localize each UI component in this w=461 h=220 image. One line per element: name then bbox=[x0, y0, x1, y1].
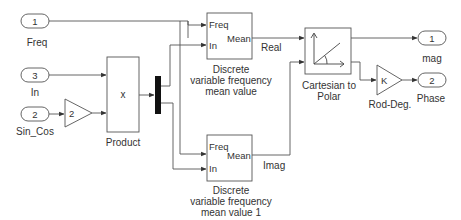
signal-imag-label: Imag bbox=[263, 160, 285, 171]
product-symbol: x bbox=[121, 89, 126, 100]
cart2polar-label-1: Cartesian to bbox=[302, 80, 356, 91]
cart2polar-block[interactable] bbox=[305, 28, 351, 74]
inport-sincos-number: 2 bbox=[32, 109, 37, 120]
product-label: Product bbox=[106, 137, 140, 148]
gain-value: 2 bbox=[69, 108, 74, 119]
mean-imag-freq-port: Freq bbox=[209, 141, 229, 152]
inport-freq-number: 1 bbox=[32, 16, 37, 27]
rad-deg-value: K bbox=[381, 75, 387, 86]
demux-bar[interactable] bbox=[155, 76, 161, 114]
inport-freq-label: Freq bbox=[27, 37, 48, 48]
mean-real-label-2: variable frequency bbox=[190, 75, 272, 86]
mean-imag-label-2: variable frequency bbox=[190, 196, 272, 207]
mean-real-label-1: Discrete bbox=[213, 64, 250, 75]
mean-real-label-3: mean value bbox=[205, 86, 257, 97]
mean-imag-in-port: In bbox=[209, 163, 217, 174]
signal-real-label: Real bbox=[261, 42, 282, 53]
mean-real-in-port: In bbox=[209, 40, 217, 51]
outport-phase-label: Phase bbox=[417, 93, 445, 104]
mean-imag-label-3: mean value 1 bbox=[201, 207, 261, 218]
outport-phase-number: 2 bbox=[429, 75, 434, 86]
mean-imag-out-port: Mean bbox=[227, 150, 251, 161]
inport-in-label: In bbox=[31, 87, 39, 98]
mean-real-freq-port: Freq bbox=[209, 19, 229, 30]
mean-imag-label-1: Discrete bbox=[213, 185, 250, 196]
outport-mag-label: mag bbox=[422, 53, 441, 64]
inport-in-number: 3 bbox=[32, 70, 37, 81]
cart2polar-label-2: Polar bbox=[317, 91, 340, 102]
rad-deg-label: Rod-Deg. bbox=[369, 99, 412, 110]
outport-mag-number: 1 bbox=[429, 33, 434, 44]
mean-real-out-port: Mean bbox=[227, 33, 251, 44]
inport-sincos-label: Sin_Cos bbox=[16, 126, 54, 137]
